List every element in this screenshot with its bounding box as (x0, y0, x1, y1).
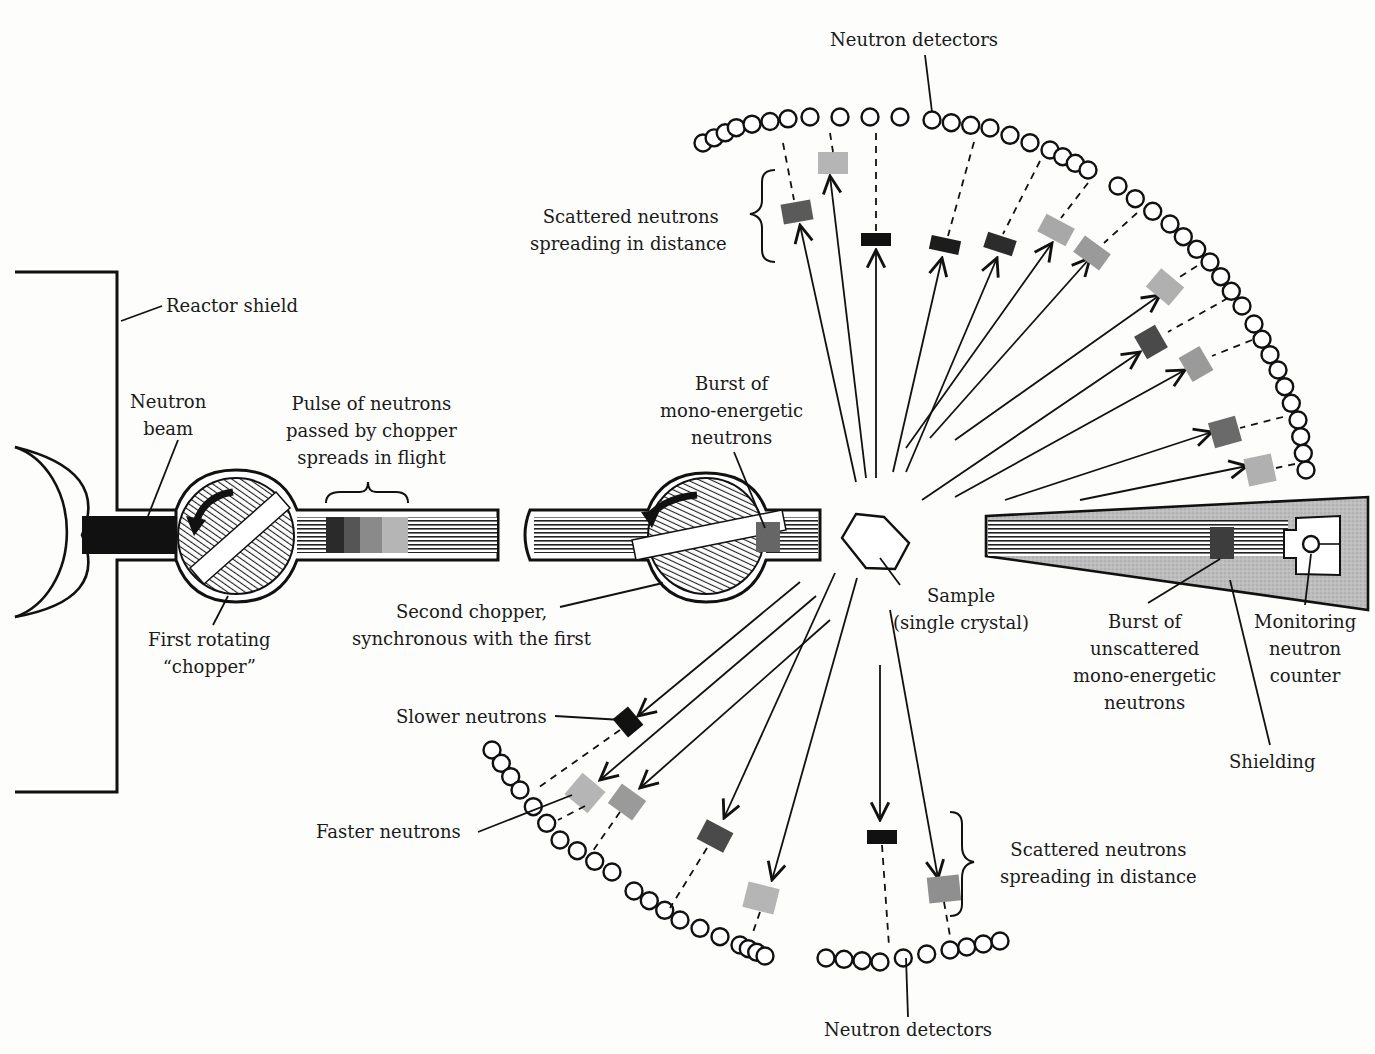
scattered-bursts-lower (565, 706, 962, 914)
detector-icon (854, 952, 871, 969)
detector-icon (1002, 127, 1019, 144)
detector-icon (762, 113, 779, 130)
detector-icon (872, 954, 889, 971)
detector-icon (780, 110, 797, 127)
detector-icon (892, 109, 909, 126)
label-scattered-lower: Scattered neutrons spreading in distance (1000, 836, 1197, 890)
label-neutron-beam: Neutron beam (130, 388, 206, 442)
label-neutron-detectors-top: Neutron detectors (830, 26, 998, 53)
label-second-chopper: Second chopper, synchronous with the fir… (352, 598, 591, 652)
mono-burst (756, 522, 780, 552)
brace-upper (750, 170, 775, 262)
label-burst-mono-energetic: Burst of mono-energetic neutrons (660, 370, 803, 451)
detector-icon (918, 946, 935, 963)
monitor-housing (986, 497, 1368, 610)
detector-icon (626, 883, 643, 900)
scattered-bursts-upper (780, 152, 1276, 487)
label-burst-unscattered: Burst of unscattered mono-energetic neut… (1073, 608, 1216, 716)
scattered-rays-upper (800, 176, 1247, 500)
detector-icon (757, 948, 774, 965)
sample-crystal (842, 514, 909, 569)
reactor-core (15, 447, 67, 617)
detector-icon (818, 950, 835, 967)
detector-icon (692, 920, 709, 937)
detector-icon (1175, 228, 1192, 245)
neutron-beam (82, 516, 190, 554)
detector-icon (958, 939, 975, 956)
detector-icon (1022, 134, 1039, 151)
detector-icon (744, 116, 761, 133)
detector-icon (1298, 462, 1315, 479)
lower-detector-arc (484, 742, 1009, 971)
detector-icon (943, 114, 960, 131)
detector-icon (1223, 283, 1240, 300)
detector-icon (641, 892, 658, 909)
detector-icon (1110, 178, 1127, 195)
label-neutron-detectors-bottom: Neutron detectors (824, 1016, 992, 1043)
label-faster-neutrons: Faster neutrons (316, 818, 461, 845)
detector-icon (1144, 203, 1161, 220)
unscattered-burst (1210, 527, 1234, 559)
label-reactor-shield: Reactor shield (166, 292, 298, 319)
detector-icon (569, 842, 586, 859)
detector-icon (728, 119, 745, 136)
detector-icon (1127, 190, 1144, 207)
label-first-chopper: First rotating “chopper” (148, 626, 271, 680)
detector-icon (1234, 298, 1251, 315)
detector-icon (836, 951, 853, 968)
detector-icon (832, 109, 849, 126)
detector-icon (975, 936, 992, 953)
label-monitoring-counter: Monitoring neutron counter (1254, 608, 1356, 689)
detector-icon (992, 933, 1009, 950)
detector-icon (656, 902, 673, 919)
detector-icon (895, 950, 912, 967)
detector-icon (604, 864, 621, 881)
detector-icon (962, 117, 979, 134)
detector-icon (862, 109, 879, 126)
detector-icon (1188, 241, 1205, 258)
detector-icon (672, 912, 689, 929)
detector-icon (1295, 445, 1312, 462)
detector-icon (942, 942, 959, 959)
diagram-canvas: Reactor shield Neutron beam Pulse of neu… (0, 0, 1375, 1054)
detector-icon (1290, 412, 1307, 429)
detector-icon (924, 112, 941, 129)
detector-icon (552, 832, 569, 849)
second-chopper (525, 473, 820, 602)
label-sample: Sample (single crystal) (893, 582, 1029, 636)
detector-icon (1212, 268, 1229, 285)
neutron-pulse (326, 517, 408, 553)
pulse-brace (326, 482, 408, 503)
monitor-counter (1303, 536, 1319, 552)
apparatus-drawing (0, 0, 1375, 1054)
detector-icon (1270, 362, 1287, 379)
label-pulse-of-neutrons: Pulse of neutrons passed by chopper spre… (286, 390, 457, 471)
detector-icon (512, 782, 529, 799)
detector-icon (1276, 378, 1293, 395)
detector-icon (1283, 395, 1300, 412)
detector-icon (802, 109, 819, 126)
label-shielding: Shielding (1229, 748, 1315, 775)
detector-icon (1202, 254, 1219, 271)
detector-icon (712, 928, 729, 945)
detector-icon (1292, 428, 1309, 445)
label-scattered-upper: Scattered neutrons spreading in distance (530, 203, 727, 257)
detector-icon (586, 853, 603, 870)
detector-icon (1080, 162, 1097, 179)
detector-icon (982, 120, 999, 137)
detector-icon (538, 815, 555, 832)
detector-icon (1162, 216, 1179, 233)
label-slower-neutrons: Slower neutrons (396, 703, 547, 730)
